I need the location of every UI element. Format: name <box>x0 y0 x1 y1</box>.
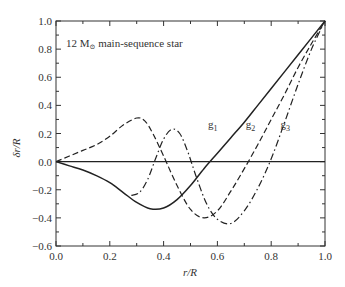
series-labels: g1g2g3 <box>208 118 290 133</box>
series-g1-line <box>56 21 325 209</box>
series-label-g2: g2 <box>246 118 256 133</box>
chart: 0.00.20.40.60.81.01.00.80.60.40.20.0−0.2… <box>0 0 345 287</box>
plot-frame <box>56 21 325 246</box>
y-axis-label: δr/R <box>10 138 22 157</box>
plot-border <box>56 21 325 246</box>
x-axis-label: r/R <box>183 266 197 278</box>
y-tick-label: 0.2 <box>38 128 52 140</box>
series-g3-line <box>131 21 325 224</box>
tick-labels: 0.00.20.40.60.81.01.00.80.60.40.20.0−0.2… <box>32 15 332 262</box>
x-tick-label: 0.8 <box>264 250 278 262</box>
y-tick-label: −0.6 <box>32 240 52 252</box>
x-tick-label: 0.4 <box>157 250 171 262</box>
chart-annotation: 12 M⊙ main-sequence star <box>66 37 183 51</box>
y-tick-label: 0.8 <box>38 43 52 55</box>
x-tick-label: 0.2 <box>103 250 117 262</box>
x-tick-label: 1.0 <box>318 250 332 262</box>
y-tick-label: −0.2 <box>32 184 52 196</box>
y-tick-label: 1.0 <box>38 15 52 27</box>
axis-ticks <box>56 21 325 246</box>
y-tick-label: 0.0 <box>38 156 52 168</box>
y-tick-label: −0.4 <box>32 212 52 224</box>
series-label-g1: g1 <box>208 118 218 133</box>
y-tick-label: 0.6 <box>38 71 52 83</box>
y-tick-label: 0.4 <box>38 99 52 111</box>
x-tick-label: 0.6 <box>211 250 225 262</box>
